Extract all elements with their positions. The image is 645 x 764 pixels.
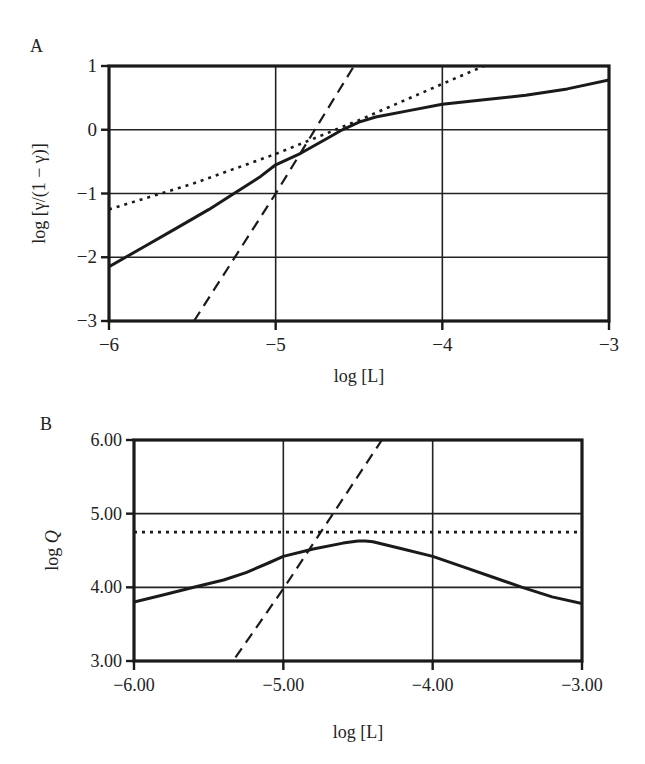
series-dashed-line bbox=[236, 440, 382, 657]
x-tick-label: −4.00 bbox=[412, 675, 454, 695]
x-tick-label: −3 bbox=[599, 334, 619, 355]
y-tick-label: 4.00 bbox=[91, 577, 123, 597]
y-axis-label: log [γ/(1 − γ)] bbox=[29, 143, 50, 244]
panel-label: B bbox=[40, 414, 52, 434]
x-tick-label: −3.00 bbox=[561, 675, 603, 695]
figure: A−6−5−4−310−1−2−3log [L]log [γ/(1 − γ)] … bbox=[0, 0, 645, 764]
series-dotted-line bbox=[109, 66, 484, 209]
x-tick-label: −5.00 bbox=[263, 675, 305, 695]
y-tick-label: −1 bbox=[77, 183, 97, 204]
y-tick-label: 1 bbox=[88, 55, 98, 76]
y-tick-label: −3 bbox=[77, 310, 97, 331]
x-tick-label: −6 bbox=[99, 334, 119, 355]
x-axis-label: log [L] bbox=[334, 366, 384, 386]
figure-canvas: A−6−5−4−310−1−2−3log [L]log [γ/(1 − γ)] … bbox=[0, 0, 645, 764]
y-tick-label: 5.00 bbox=[91, 504, 123, 524]
y-tick-label: 6.00 bbox=[91, 430, 123, 450]
y-axis-label: log Q bbox=[42, 530, 62, 571]
x-tick-label: −6.00 bbox=[113, 675, 155, 695]
plot-frame bbox=[134, 440, 582, 661]
series-solid-line bbox=[109, 80, 609, 267]
y-tick-label: 3.00 bbox=[91, 651, 123, 671]
panel-b: B−6.00−5.00−4.00−3.006.005.004.003.00log… bbox=[40, 414, 603, 742]
x-tick-label: −4 bbox=[432, 334, 453, 355]
x-tick-label: −5 bbox=[266, 334, 286, 355]
y-tick-label: −2 bbox=[77, 246, 97, 267]
x-axis-label: log [L] bbox=[333, 722, 383, 742]
panel-a: A−6−5−4−310−1−2−3log [L]log [γ/(1 − γ)] bbox=[29, 36, 619, 386]
panel-label: A bbox=[30, 36, 43, 56]
y-tick-label: 0 bbox=[88, 119, 98, 140]
series-solid-line bbox=[134, 541, 582, 604]
